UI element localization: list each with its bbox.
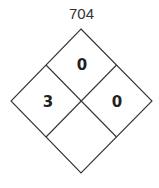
flammability-value: 0 [67, 57, 97, 73]
instability-value: 0 [102, 94, 132, 110]
health-value: 3 [33, 94, 63, 110]
nfpa-diamond [0, 0, 159, 188]
